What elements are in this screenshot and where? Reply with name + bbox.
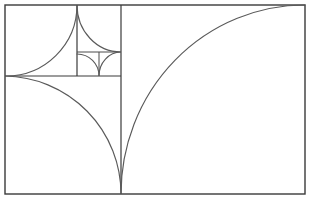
golden-rectangle-outline [5,5,305,194]
golden-spiral-path [5,5,305,194]
fibonacci-spiral-svg [0,0,312,207]
fibonacci-figure [0,0,312,207]
